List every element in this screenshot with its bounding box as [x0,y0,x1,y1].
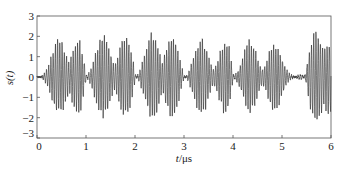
y-tick-label: 0 [29,71,35,83]
x-axis-label-unit: /μs [179,152,192,164]
y-tick-label: 2 [29,30,35,42]
x-axis-ticks: 0123456 [36,135,334,152]
signal-chart: −3−2−10123 0123456 s(t) t/μs [0,0,342,170]
plot-area [37,16,331,138]
x-tick-label: 6 [328,140,334,152]
y-tick-label: 1 [29,51,35,63]
x-tick-label: 0 [36,140,42,152]
y-tick-label: −2 [22,112,34,124]
x-tick-label: 2 [132,140,138,152]
x-tick-label: 4 [230,140,236,152]
y-tick-label: −3 [22,127,34,139]
y-tick-label: 3 [29,10,35,22]
x-tick-label: 5 [279,140,285,152]
x-axis-label: t/μs [176,152,192,164]
x-tick-label: 1 [83,140,89,152]
x-tick-label: 3 [181,140,187,152]
signal-line [37,32,331,119]
y-axis-label: s(t) [3,70,16,85]
y-tick-label: −1 [22,91,34,103]
